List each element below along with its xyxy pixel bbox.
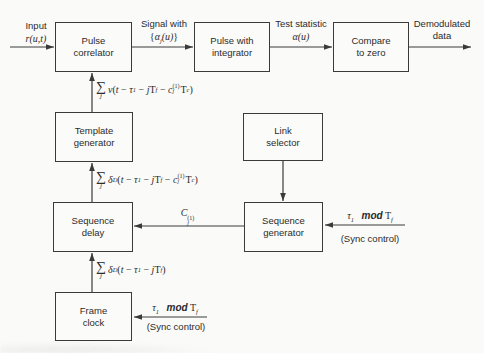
block-compare-to-zero: Compare to zero	[333, 22, 409, 72]
block-frame-clock: Frame clock	[55, 292, 132, 341]
block-label: selector	[266, 137, 299, 149]
block-label: delay	[82, 227, 105, 239]
code-sequence-label: C(1)j	[170, 206, 206, 226]
block-label: correlator	[73, 47, 113, 59]
block-label: Compare	[351, 35, 390, 47]
test-statistic-title: Test statistic	[270, 18, 332, 30]
signal-with-label: Signal with {αj(u)}	[134, 18, 194, 47]
frame-delta-formula: ∑jδD(t − τ1 − jTf)	[96, 256, 166, 282]
block-label: Pulse	[82, 35, 106, 47]
block-sequence-delay: Sequence delay	[53, 202, 133, 252]
sync-control-label-seqgen: (Sync control)	[330, 233, 410, 245]
sync-tau-label-frameclock: τ1 mod Tf	[139, 301, 211, 318]
signal-with-title: Signal with	[134, 18, 194, 30]
block-label: Frame	[80, 305, 107, 317]
block-label: to zero	[356, 47, 385, 59]
block-label: Sequence	[262, 215, 305, 227]
block-sequence-generator: Sequence generator	[244, 202, 323, 252]
alpha-u-formula: α(u)	[270, 30, 332, 43]
coded-delta-formula: ∑jδD(t − τ1 − jTf − c(1)jTc)	[96, 166, 198, 192]
test-statistic-label: Test statistic α(u)	[270, 18, 332, 43]
block-pulse-correlator: Pulse correlator	[55, 22, 132, 72]
block-label: Sequence	[72, 215, 115, 227]
block-diagram: Pulse correlator Pulse with integrator C…	[0, 0, 484, 353]
alpha-set-formula: {αj(u)}	[134, 30, 194, 47]
output-line1: Demodulated	[410, 18, 474, 30]
block-label: Link	[274, 125, 291, 137]
block-label: Template	[75, 125, 114, 137]
block-label: generator	[74, 137, 115, 149]
block-link-selector: Link selector	[243, 113, 323, 161]
block-label: clock	[83, 317, 105, 329]
sync-control-label-frameclock: (Sync control)	[136, 321, 216, 333]
sync-tau-label-seqgen: τ1 mod Tf	[334, 209, 406, 226]
template-signal-formula: ∑jv(t − τ1 − jTf − c(1)jTc)	[96, 76, 193, 102]
input-label: Input r(u,t)	[10, 20, 62, 45]
input-signal-formula: r(u,t)	[10, 32, 62, 45]
output-line2: data	[410, 30, 474, 42]
demodulated-data-label: Demodulated data	[410, 18, 474, 42]
scan-artifact	[0, 342, 220, 353]
block-label: integrator	[212, 47, 252, 59]
block-label: Pulse with	[210, 35, 253, 47]
block-pulse-integrator: Pulse with integrator	[194, 22, 270, 72]
block-label: generator	[263, 227, 304, 239]
block-template-generator: Template generator	[55, 112, 133, 162]
input-title: Input	[10, 20, 62, 32]
